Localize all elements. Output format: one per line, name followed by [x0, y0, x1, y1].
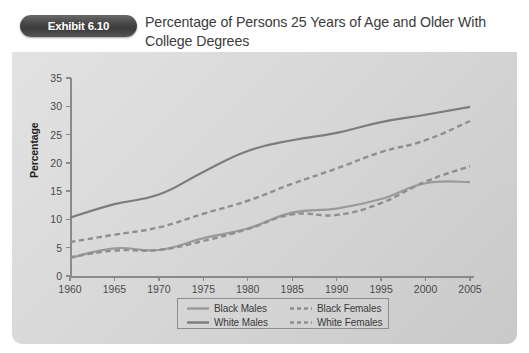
legend-item: Black Males — [187, 303, 268, 315]
page-title: Percentage of Persons 25 Years of Age an… — [145, 13, 515, 51]
legend-label: Black Males — [214, 303, 267, 314]
legend-label: White Females — [317, 317, 382, 328]
legend-item: White Males — [187, 317, 268, 329]
legend-item: Black Females — [290, 303, 382, 315]
series-line-black-males — [70, 181, 470, 258]
legend-swatch-solid — [187, 303, 209, 314]
legend-swatch-dashed — [290, 317, 312, 328]
legend-swatch-solid — [187, 317, 209, 328]
legend-column-right: Black FemalesWhite Females — [290, 303, 382, 330]
series-line-white-males — [70, 107, 470, 218]
legend-label: Black Females — [317, 303, 381, 314]
series-line-white-females — [70, 121, 470, 242]
chart-legend: Black MalesWhite Males Black FemalesWhit… — [177, 298, 389, 329]
exhibit-badge-label: Exhibit 6.10 — [48, 20, 110, 32]
legend-item: White Females — [290, 317, 382, 329]
exhibit-badge: Exhibit 6.10 — [20, 15, 137, 37]
chart-header: Exhibit 6.10 Percentage of Persons 25 Ye… — [0, 0, 529, 52]
chart-panel: Percentage 05101520253035 19601965197019… — [12, 52, 517, 344]
legend-label: White Males — [214, 317, 268, 328]
series-line-black-females — [70, 166, 470, 257]
legend-column-left: Black MalesWhite Males — [187, 303, 268, 330]
legend-swatch-dashed — [290, 303, 312, 314]
